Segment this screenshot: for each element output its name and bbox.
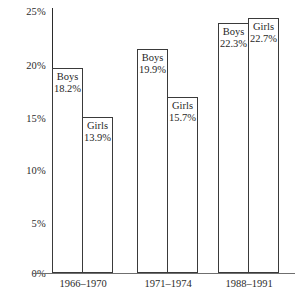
bar-series-name: Boys — [53, 71, 82, 83]
bar-value-label: 22.3% — [219, 38, 248, 50]
bar-label: Boys 19.9% — [138, 52, 167, 75]
x-axis-line — [33, 273, 295, 274]
x-axis-category-label-1: 1966–1970 — [37, 278, 129, 290]
bar-label: Girls 13.9% — [83, 120, 112, 143]
bar-boys-1966-1970[interactable]: Boys 18.2% — [52, 68, 83, 273]
bar-value-label: 22.7% — [249, 33, 278, 45]
bar-label: Girls 15.7% — [168, 100, 197, 123]
bar-boys-1988-1991[interactable]: Boys 22.3% — [218, 23, 249, 273]
bar-girls-1966-1970[interactable]: Girls 13.9% — [82, 117, 113, 273]
plot-area: Boys 18.2% Girls 13.9% Boys 19.9% Girls … — [0, 0, 303, 296]
bar-value-label: 13.9% — [83, 132, 112, 144]
bar-series-name: Girls — [168, 100, 197, 112]
x-axis-category-label-2: 1971–1974 — [122, 278, 214, 290]
bar-series-name: Girls — [83, 120, 112, 132]
bar-girls-1988-1991[interactable]: Girls 22.7% — [248, 18, 279, 273]
bar-girls-1971-1974[interactable]: Girls 15.7% — [167, 97, 198, 273]
bar-label: Boys 18.2% — [53, 71, 82, 94]
bar-series-name: Girls — [249, 21, 278, 33]
bar-label: Girls 22.7% — [249, 21, 278, 44]
bar-boys-1971-1974[interactable]: Boys 19.9% — [137, 49, 168, 273]
bar-value-label: 18.2% — [53, 83, 82, 95]
bar-series-name: Boys — [138, 52, 167, 64]
bar-value-label: 15.7% — [168, 112, 197, 124]
bar-label: Boys 22.3% — [219, 26, 248, 49]
bar-value-label: 19.9% — [138, 64, 167, 76]
bar-series-name: Boys — [219, 26, 248, 38]
bar-chart: 25% 20% 15% 10% 5% 0% Boys 18.2% Girls 1… — [0, 0, 303, 296]
x-axis-category-label-3: 1988–1991 — [203, 278, 295, 290]
